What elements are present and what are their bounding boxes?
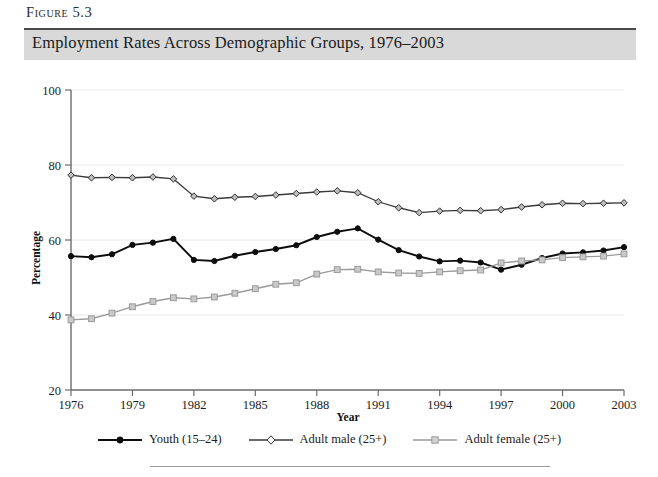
filled-circle-marker [232,253,237,258]
series-group [68,172,628,323]
legend-label-youth: Youth (15–24) [149,432,222,447]
open-diamond-marker [232,194,239,201]
open-diamond-marker [539,201,546,208]
open-diamond-marker [68,172,75,179]
line-chart-svg: 20406080100 1976197919821985198819911994… [0,0,658,477]
series-line-female [71,254,624,320]
open-square-marker [273,281,279,287]
filled-circle-marker [314,234,319,239]
x-tick-label: 1979 [120,398,145,412]
open-square-marker [293,280,299,286]
chart-legend: Youth (15–24) Adult male (25+) Adult fem… [0,432,658,447]
filled-circle-marker [335,229,340,234]
open-diamond-marker [395,204,402,211]
open-square-marker [232,290,238,296]
series-line-youth [71,228,624,269]
open-square-marker [457,268,463,274]
filled-circle-marker [130,242,135,247]
legend-item-youth: Youth (15–24) [97,432,222,447]
footer-divider-rule [150,466,550,467]
open-diamond-marker [129,174,136,181]
open-square-marker [601,253,607,259]
x-tick-label: 2000 [550,398,575,412]
open-diamond-marker [498,206,505,213]
open-square-marker [89,316,95,322]
y-tick-label: 100 [42,84,61,98]
open-diamond-marker [313,189,320,196]
open-square-marker [519,258,525,264]
x-tick-label: 1985 [243,398,268,412]
open-diamond-marker [457,207,464,214]
filled-circle-marker [109,252,114,257]
y-tick-label: 40 [49,309,62,323]
open-square-marker [416,270,422,276]
open-square-marker [437,269,443,275]
y-tick-label: 80 [49,159,62,173]
legend-item-adult-male: Adult male (25+) [248,432,387,447]
open-square-marker-icon [412,434,458,446]
x-tick-label: 1988 [304,398,329,412]
x-axis-ticks-group: 1976197919821985198819911994199720002003 [59,390,637,412]
open-square-marker [621,251,627,257]
open-square-marker [252,286,258,292]
open-square-marker [396,270,402,276]
open-diamond-marker [518,204,525,211]
open-square-marker [130,304,136,310]
legend-item-adult-female: Adult female (25+) [412,432,561,447]
filled-circle-marker [601,248,606,253]
open-diamond-marker [621,200,628,207]
x-tick-label: 1991 [366,398,391,412]
chart-plot-area: 20406080100 1976197919821985198819911994… [0,0,658,477]
open-square-marker [560,255,566,261]
filled-circle-marker [212,258,217,263]
open-square-marker [191,296,197,302]
filled-circle-marker [499,267,504,272]
open-diamond-marker [477,207,484,214]
open-diamond-marker [600,200,607,207]
open-diamond-marker [252,193,259,200]
open-diamond-marker [109,174,116,181]
open-diamond-marker [88,174,95,181]
filled-circle-marker [437,259,442,264]
figure-page: Figure 5.3 Employment Rates Across Demog… [0,0,658,477]
filled-circle-marker [294,243,299,248]
x-tick-label: 1982 [181,398,206,412]
open-diamond-marker [580,200,587,207]
filled-circle-marker [191,257,196,262]
open-diamond-marker [150,174,157,181]
open-square-marker [314,271,320,277]
open-square-marker [211,294,217,300]
legend-label-adult-male: Adult male (25+) [300,432,387,447]
filled-circle-marker [89,255,94,260]
open-diamond-marker-icon [248,434,294,446]
open-diamond-marker [293,190,300,197]
open-diamond-marker [436,208,443,215]
open-square-marker [375,269,381,275]
filled-circle-marker [273,246,278,251]
y-axis-ticks-group: 20406080100 [42,84,71,398]
x-tick-label: 1976 [59,398,84,412]
open-square-marker [355,266,361,272]
open-square-marker [498,260,504,266]
open-square-marker [539,257,545,263]
x-tick-label: 1997 [489,398,514,412]
open-square-marker [109,310,115,316]
filled-circle-marker [376,237,381,242]
filled-circle-marker [621,245,626,250]
open-square-marker [334,267,340,273]
open-square-marker [171,295,177,301]
open-diamond-marker [559,200,566,207]
x-axis-title: Year [337,411,360,423]
filled-circle-marker [150,240,155,245]
open-square-marker [68,317,74,323]
filled-circle-marker [355,226,360,231]
legend-label-adult-female: Adult female (25+) [464,432,561,447]
open-diamond-marker [354,189,361,196]
filled-circle-marker-icon [97,434,143,446]
filled-circle-marker [68,254,73,259]
open-diamond-marker [211,195,218,202]
y-axis-title: Percentage [30,231,43,285]
y-tick-label: 20 [49,384,62,398]
filled-circle-marker [253,249,258,254]
open-diamond-marker [375,198,382,205]
